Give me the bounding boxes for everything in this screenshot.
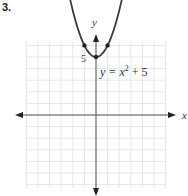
y-axis-up-arrow-icon <box>93 34 99 42</box>
plotted-point <box>82 43 86 47</box>
y-axis-label: y <box>91 16 97 28</box>
y-axis-down-arrow-icon <box>93 188 99 196</box>
equation-label: y = x2 + 5 <box>99 64 148 79</box>
plotted-point <box>94 55 98 59</box>
x-axis-label: x <box>181 109 187 121</box>
axes: x y 5 <box>15 16 187 196</box>
x-axis-left-arrow-icon <box>15 112 23 118</box>
y-tick-label-5: 5 <box>81 53 86 64</box>
coordinate-plane: x y 5 y = x2 + 5 <box>0 0 188 196</box>
x-axis-right-arrow-icon <box>168 112 176 118</box>
plotted-point <box>105 43 109 47</box>
